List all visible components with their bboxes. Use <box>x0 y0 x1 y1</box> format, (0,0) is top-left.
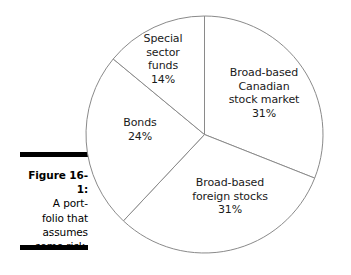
slice-label-canadian: Broad-based Canadian stock market 31% <box>210 66 318 120</box>
figure-page: Figure 16-1: A port- folio that assumes … <box>0 0 351 275</box>
slice-label-canadian-line-1: Broad-based <box>210 66 318 80</box>
pie-chart: Broad-based Canadian stock market 31% Br… <box>0 0 351 275</box>
slice-label-foreign-value: 31% <box>174 203 286 217</box>
slice-label-foreign-line-2: foreign stocks <box>174 190 286 204</box>
slice-label-special-line-1: Special <box>130 32 196 46</box>
slice-label-foreign-line-1: Broad-based <box>174 176 286 190</box>
slice-label-canadian-line-2: Canadian <box>210 80 318 94</box>
slice-label-special-line-3: funds <box>130 59 196 73</box>
slice-label-special-line-2: sector <box>130 46 196 60</box>
slice-label-special: Special sector funds 14% <box>130 32 196 86</box>
slice-label-bonds-value: 24% <box>106 130 174 144</box>
slice-label-canadian-line-3: stock market <box>210 93 318 107</box>
slice-label-bonds: Bonds 24% <box>106 116 174 143</box>
slice-label-special-value: 14% <box>130 73 196 87</box>
slice-label-bonds-line-1: Bonds <box>106 116 174 130</box>
slice-label-foreign: Broad-based foreign stocks 31% <box>174 176 286 217</box>
slice-label-canadian-value: 31% <box>210 107 318 121</box>
